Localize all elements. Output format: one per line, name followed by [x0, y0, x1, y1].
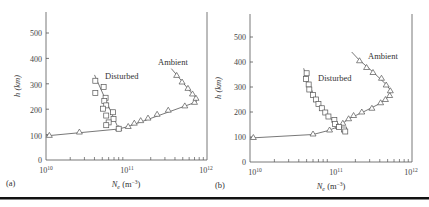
triangle-marker — [369, 105, 375, 110]
triangle-marker — [387, 93, 393, 98]
triangle-marker — [387, 88, 393, 93]
panel-a-ambient-label: Ambient — [158, 57, 188, 67]
triangle-marker — [364, 65, 370, 70]
square-marker — [326, 114, 331, 119]
panel-a-ytick-0: 0 — [38, 156, 42, 165]
panel-b-markers — [250, 58, 393, 140]
square-marker — [116, 126, 121, 131]
panel-a-axes — [46, 12, 207, 160]
square-marker — [303, 77, 308, 82]
panel-a-x-axis-title: Ne (m−3) — [111, 179, 141, 190]
panel-a-xtick-1e11: 1011 — [120, 165, 134, 175]
panel-b-xtick-1e11: 1011 — [329, 167, 343, 177]
panel-a-y-axis-title: h (km) — [12, 75, 22, 97]
square-marker — [101, 85, 106, 90]
panel-a: 0 100 200 300 400 500 1010 1011 1012 h (… — [6, 12, 213, 190]
triangle-marker — [179, 79, 185, 84]
panel-b-y-axis-title: h (km) — [213, 77, 223, 99]
square-marker — [111, 116, 116, 121]
square-marker — [343, 129, 348, 134]
panel-b-fit-lines — [250, 52, 391, 138]
panel-b-disturbed-label: Disturbed — [318, 73, 352, 83]
square-marker — [304, 71, 309, 76]
triangle-marker — [138, 118, 144, 123]
triangle-marker — [145, 115, 151, 120]
panel-b-ambient-label: Ambient — [368, 51, 398, 61]
panel-b-ytick-200: 200 — [234, 108, 246, 117]
panel-a-ytick-200: 200 — [30, 106, 42, 115]
panel-b-ytick-100: 100 — [234, 133, 246, 142]
triangle-marker — [174, 72, 180, 77]
panel-a-ytick-100: 100 — [30, 132, 42, 141]
panel-b-ytick-300: 300 — [234, 83, 246, 92]
panel-a-ytick-400: 400 — [30, 55, 42, 64]
square-marker — [93, 78, 98, 83]
square-marker — [337, 125, 342, 130]
panel-a-xtick-1e10: 1010 — [39, 165, 53, 175]
square-marker — [104, 123, 109, 128]
panel-b-label: (b) — [215, 180, 225, 190]
panel-a-ytick-500: 500 — [30, 29, 42, 38]
panel-b-ytick-400: 400 — [234, 58, 246, 67]
figure: 0 100 200 300 400 500 1010 1011 1012 h (… — [0, 0, 429, 207]
bottom-rule — [0, 197, 429, 200]
panel-a-xtick-1e12: 1012 — [199, 165, 213, 175]
square-marker — [306, 82, 311, 87]
triangle-marker — [351, 113, 357, 118]
square-marker — [100, 106, 105, 111]
ambient-fit-line — [250, 52, 391, 138]
panel-b-x-axis-title: Ne (m−3) — [316, 181, 346, 192]
panel-b-xtick-1e12: 1012 — [404, 167, 418, 177]
triangle-marker — [76, 129, 82, 134]
square-marker — [93, 90, 98, 95]
triangle-marker — [131, 120, 137, 125]
panel-b: 0 100 200 300 400 500 1010 1011 1012 h (… — [213, 14, 418, 192]
panel-b-ytick-500: 500 — [234, 33, 246, 42]
triangle-marker — [310, 131, 316, 136]
square-marker — [104, 113, 109, 118]
square-marker — [111, 110, 116, 115]
square-marker — [307, 87, 312, 92]
triangle-marker — [154, 111, 160, 116]
panel-a-ytick-300: 300 — [30, 81, 42, 90]
panel-b-xtick-1e10: 1010 — [248, 167, 262, 177]
panel-a-disturbed-label: Disturbed — [105, 71, 139, 81]
panel-a-label: (a) — [6, 178, 16, 188]
panel-b-axes — [250, 14, 412, 162]
triangle-marker — [165, 107, 171, 112]
panel-b-ytick-0: 0 — [242, 158, 246, 167]
